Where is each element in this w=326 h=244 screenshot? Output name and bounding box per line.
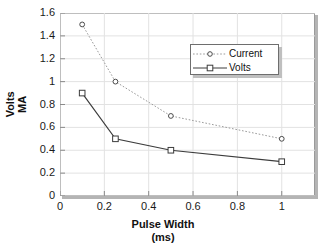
y-tick-label: 1.4 <box>21 30 55 41</box>
x-tick-label: 1 <box>262 201 302 212</box>
y-axis-title-ma: MA <box>16 82 29 126</box>
x-tick-label: 0.2 <box>84 201 124 212</box>
y-tick-label: 0.4 <box>21 144 55 155</box>
legend-label-volts: Volts <box>229 63 251 73</box>
y-tick-label: 1.6 <box>21 7 55 18</box>
x-axis-title-units: (ms) <box>0 231 326 244</box>
x-axis-title: Pulse Width <box>0 218 326 231</box>
y-tick-label: 1.2 <box>21 53 55 64</box>
legend-sample-volts <box>191 61 229 75</box>
x-tick-label: 0.8 <box>217 201 257 212</box>
plot-frame-shadow-bottom <box>62 196 317 199</box>
legend-sample-current <box>191 47 229 61</box>
y-tick-label: 0.2 <box>21 167 55 178</box>
plot-canvas <box>60 13 315 196</box>
plot-frame-shadow-right <box>315 15 318 199</box>
legend[interactable]: Current Volts <box>190 44 279 75</box>
gridlines <box>60 13 315 196</box>
x-tick-label: 0 <box>40 201 80 212</box>
legend-label-current: Current <box>229 49 262 59</box>
legend-entry-volts[interactable]: Volts <box>191 60 278 75</box>
y-tick-label: 0 <box>21 190 55 201</box>
line-chart: 00.20.40.60.811.21.41.6 00.20.40.60.81 V… <box>0 0 326 244</box>
x-tick-label: 0.6 <box>173 201 213 212</box>
y-axis-title-volts: Volts <box>4 82 17 126</box>
legend-entry-current[interactable]: Current <box>191 46 278 61</box>
x-tick-label: 0.4 <box>129 201 169 212</box>
